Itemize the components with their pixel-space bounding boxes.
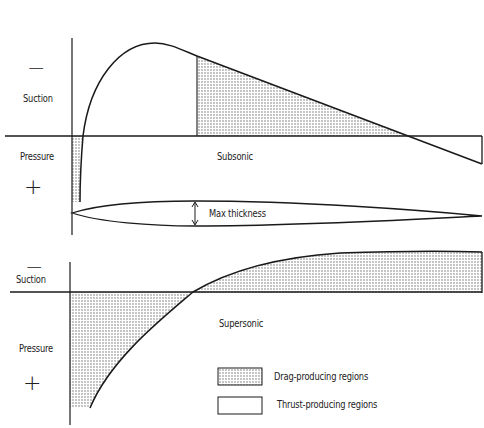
airfoil-section — [72, 201, 482, 226]
airfoil-shape — [72, 201, 482, 226]
supersonic-drag-region-pressure — [70, 292, 193, 408]
subsonic-plus-sign: + — [24, 176, 42, 198]
subsonic-suction-label: Suction — [23, 92, 53, 104]
legend-swatch-thrust — [218, 397, 262, 414]
supersonic-suction-label: Suction — [16, 273, 46, 285]
supersonic-plus-sign: + — [23, 372, 41, 394]
supersonic-pressure-label: Pressure — [19, 342, 53, 354]
subsonic-pressure-label: Pressure — [20, 150, 54, 162]
max-thickness-label: Max thickness — [209, 207, 266, 219]
subsonic-minus-sign: − — [27, 57, 45, 79]
subsonic-regime-label: Subsonic — [217, 150, 253, 162]
supersonic-regime-label: Supersonic — [219, 317, 263, 329]
legend-label-thrust: Thrust-producing regions — [277, 398, 377, 410]
legend — [218, 368, 262, 414]
legend-swatch-drag — [218, 368, 262, 385]
legend-label-drag: Drag-producing regions — [274, 370, 368, 382]
